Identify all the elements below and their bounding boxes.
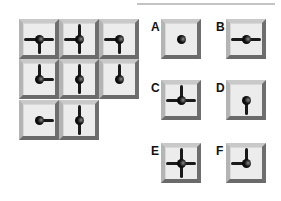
tile-face (23, 104, 55, 136)
option-tile-d[interactable] (226, 80, 266, 120)
tile-face (165, 147, 197, 179)
tile-face (230, 23, 262, 55)
grid-tile-r0c1 (59, 19, 99, 59)
tile-face (103, 23, 135, 55)
tile-face (230, 84, 262, 116)
tile-face (23, 63, 55, 95)
grid-tile-r2c1 (59, 100, 99, 140)
center-dot-icon (35, 75, 44, 84)
grid-tile-r1c2 (99, 59, 139, 99)
option-tile-c[interactable] (161, 80, 201, 120)
grid-tile-r1c0 (19, 59, 59, 99)
tile-face (63, 104, 95, 136)
center-dot-icon (242, 35, 251, 44)
option-label-a: A (151, 21, 160, 33)
center-dot-icon (242, 159, 251, 168)
center-dot-icon (35, 35, 44, 44)
tile-face (23, 23, 55, 55)
option-tile-f[interactable] (226, 143, 266, 183)
option-label-d: D (216, 82, 225, 94)
grid-tile-r0c2 (99, 19, 139, 59)
divider-line (137, 3, 275, 5)
center-dot-icon (115, 75, 124, 84)
option-tile-a[interactable] (161, 19, 201, 59)
center-dot-icon (177, 96, 186, 105)
center-dot-icon (177, 35, 186, 44)
tile-face (165, 84, 197, 116)
option-tile-e[interactable] (161, 143, 201, 183)
center-dot-icon (75, 75, 84, 84)
tile-face (165, 23, 197, 55)
center-dot-icon (242, 96, 251, 105)
center-dot-icon (177, 159, 186, 168)
tile-face (103, 63, 135, 95)
center-dot-icon (75, 35, 84, 44)
grid-tile-r2c0 (19, 100, 59, 140)
option-label-c: C (151, 82, 160, 94)
grid-tile-r0c0 (19, 19, 59, 59)
tile-face (230, 147, 262, 179)
grid-tile-r1c1 (59, 59, 99, 99)
center-dot-icon (35, 116, 44, 125)
tile-face (63, 23, 95, 55)
option-label-e: E (151, 145, 159, 157)
option-label-f: F (216, 145, 223, 157)
tile-face (63, 63, 95, 95)
center-dot-icon (75, 116, 84, 125)
option-tile-b[interactable] (226, 19, 266, 59)
option-label-b: B (216, 21, 225, 33)
center-dot-icon (115, 35, 124, 44)
